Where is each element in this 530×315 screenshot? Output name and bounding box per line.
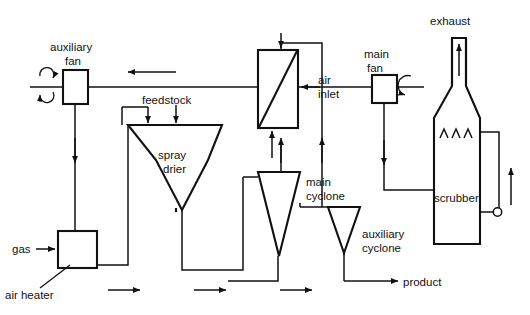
rotation-icon-aux-fan (40, 68, 54, 103)
scrubber[interactable] (434, 38, 480, 244)
label-spray-drier-line1: spray (158, 149, 186, 161)
label-main-fan-line1: main (364, 48, 389, 60)
auxiliary-cyclone[interactable] (328, 207, 360, 253)
auxiliary-fan[interactable] (40, 68, 88, 104)
label-scrubber: scrubber (434, 192, 479, 204)
label-auxiliary-cyclone-line1: auxiliary (362, 228, 404, 240)
main-fan[interactable] (372, 75, 411, 103)
drier-outlet-duct (182, 177, 258, 270)
rotation-icon-main-fan (398, 76, 411, 95)
label-auxiliary-fan-line2: fan (65, 55, 81, 67)
label-feedstock: feedstock (142, 94, 191, 106)
label-air-inlet-line2: inlet (318, 88, 340, 100)
label-main-cyclone-line1: main (306, 176, 331, 188)
process-flow-diagram-page: auxiliary fan main fan feedstock spray d… (0, 0, 530, 315)
label-air-inlet-line1: air (318, 74, 331, 86)
label-exhaust: exhaust (430, 15, 471, 27)
label-auxiliary-fan-line1: auxiliary (50, 41, 92, 53)
air-heater[interactable] (58, 231, 97, 268)
recirculation-pump-icon (493, 208, 501, 216)
main-cyclone-discharge (228, 256, 278, 281)
main-cyclone[interactable] (258, 172, 300, 256)
flow-diagram-canvas: auxiliary fan main fan feedstock spray d… (0, 0, 530, 315)
fan-to-scrubber-downcomer (384, 103, 434, 190)
label-auxiliary-cyclone-line2: cyclone (362, 242, 401, 254)
label-air-heater: air heater (5, 289, 54, 301)
heat-exchanger[interactable] (258, 50, 298, 128)
label-main-fan-line2: fan (367, 62, 383, 74)
aux-cyclone-inlet-duct (300, 203, 328, 207)
label-product: product (403, 276, 442, 288)
label-main-cyclone-line2: cyclone (306, 190, 345, 202)
label-spray-drier-line2: drier (163, 163, 186, 175)
label-gas: gas (12, 243, 31, 255)
